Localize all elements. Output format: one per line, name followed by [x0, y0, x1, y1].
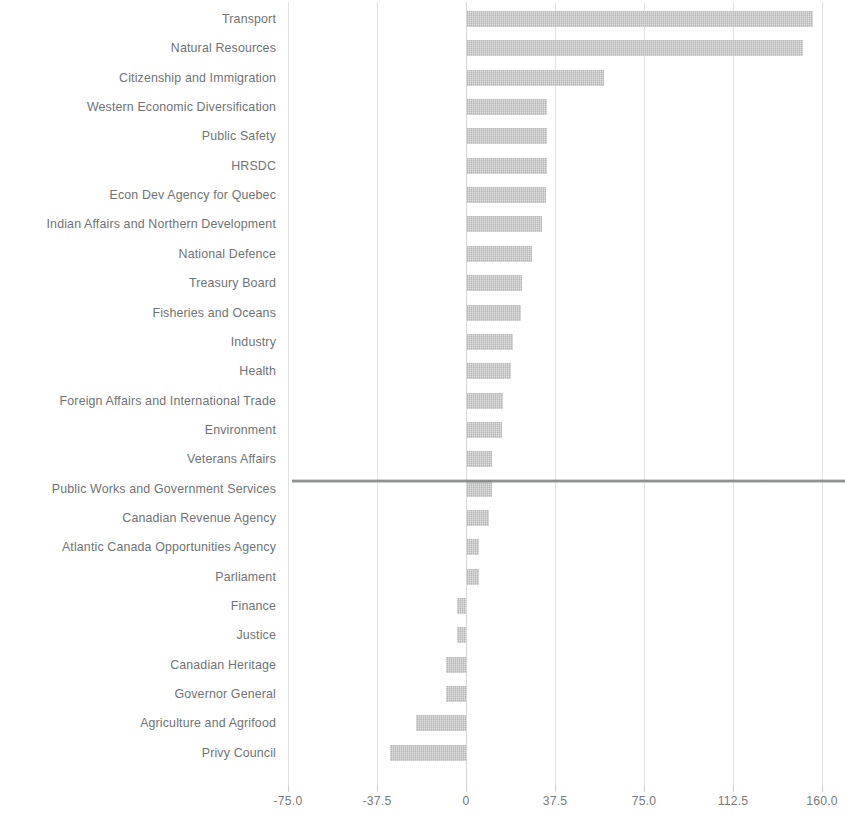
bar [390, 745, 466, 761]
x-tick-mark [288, 785, 289, 792]
bar [457, 598, 466, 614]
x-tick-label: 37.5 [543, 794, 568, 808]
category-label: Western Economic Diversification [0, 100, 282, 114]
category-label: Canadian Revenue Agency [0, 511, 282, 525]
x-tick-label: 160.0 [806, 794, 838, 808]
category-label: Atlantic Canada Opportunities Agency [0, 540, 282, 554]
category-label: Econ Dev Agency for Quebec [0, 188, 282, 202]
bar [466, 128, 547, 144]
bar [466, 40, 803, 56]
bar [466, 451, 492, 467]
x-tick-mark [466, 785, 467, 792]
category-label: Fisheries and Oceans [0, 306, 282, 320]
x-tick-label: 75.0 [632, 794, 657, 808]
category-label: Foreign Affairs and International Trade [0, 394, 282, 408]
plot-area [288, 0, 845, 785]
category-label: National Defence [0, 247, 282, 261]
gridline-4 [644, 2, 645, 785]
category-label: Finance [0, 599, 282, 613]
category-label: Veterans Affairs [0, 452, 282, 466]
bar [416, 715, 466, 731]
bar [466, 393, 503, 409]
horizontal-bar-chart: TransportNatural ResourcesCitizenship an… [0, 0, 845, 814]
category-label: Governor General [0, 687, 282, 701]
category-label: Transport [0, 12, 282, 26]
x-axis: -75.0-37.5037.575.0112.5160.0 [288, 785, 845, 814]
bar [466, 569, 479, 585]
category-label: Natural Resources [0, 41, 282, 55]
x-tick-label: -37.5 [363, 794, 392, 808]
bar [466, 70, 604, 86]
bar [466, 422, 502, 438]
x-tick-label: 0 [463, 794, 470, 808]
bar [466, 539, 479, 555]
category-label: Public Works and Government Services [0, 482, 282, 496]
category-label: Health [0, 364, 282, 378]
gridline-6 [822, 2, 823, 785]
gridline-5 [733, 2, 734, 785]
bar [446, 686, 466, 702]
x-tick-mark [377, 785, 378, 792]
category-label: Justice [0, 628, 282, 642]
bar [466, 216, 542, 232]
gridline-3 [555, 2, 556, 785]
category-label: Agriculture and Agrifood [0, 716, 282, 730]
category-label-column: TransportNatural ResourcesCitizenship an… [0, 0, 282, 785]
bar [466, 510, 489, 526]
x-tick-label: -75.0 [274, 794, 303, 808]
category-label: Canadian Heritage [0, 658, 282, 672]
category-label: Public Safety [0, 129, 282, 143]
scanline-artifact [292, 479, 845, 483]
category-label: Indian Affairs and Northern Development [0, 217, 282, 231]
bar [466, 363, 511, 379]
category-label: Privy Council [0, 746, 282, 760]
x-tick-mark [822, 785, 823, 792]
bar [446, 657, 466, 673]
category-label: Treasury Board [0, 276, 282, 290]
bar [457, 627, 466, 643]
bar [466, 275, 522, 291]
bar [466, 246, 532, 262]
x-tick-mark [555, 785, 556, 792]
category-label: HRSDC [0, 159, 282, 173]
bar [466, 11, 813, 27]
category-label: Industry [0, 335, 282, 349]
x-tick-mark [644, 785, 645, 792]
bar [466, 305, 521, 321]
category-label: Citizenship and Immigration [0, 71, 282, 85]
bar [466, 99, 547, 115]
category-label: Environment [0, 423, 282, 437]
category-label: Parliament [0, 570, 282, 584]
gridline-0 [288, 2, 289, 785]
x-tick-label: 112.5 [718, 794, 749, 808]
bar [466, 158, 547, 174]
bar [466, 334, 513, 350]
x-tick-mark [733, 785, 734, 792]
gridline-1 [377, 2, 378, 785]
bar [466, 187, 546, 203]
